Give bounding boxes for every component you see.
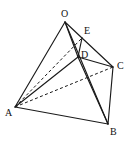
vertex-label-b: B [110, 127, 117, 137]
dashed-edge-group [15, 38, 113, 107]
edge-a-d [15, 57, 78, 107]
vertex-label-d: D [81, 50, 88, 60]
edge-d-b [78, 57, 108, 124]
edge-b-c [108, 67, 113, 124]
figure-canvas [0, 0, 134, 141]
solid-edge-group [15, 22, 113, 124]
geometry-figure: O E D C A B [0, 0, 134, 141]
edge-o-a [15, 22, 65, 107]
vertex-label-o: O [61, 9, 68, 19]
edge-a-b [15, 107, 108, 124]
vertex-label-a: A [5, 108, 12, 118]
edge-a-e [15, 38, 82, 107]
vertex-label-e: E [84, 26, 90, 36]
vertex-label-c: C [117, 61, 124, 71]
